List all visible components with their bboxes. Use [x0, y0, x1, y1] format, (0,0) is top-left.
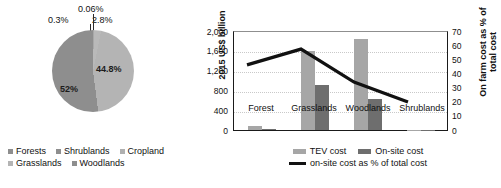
pie-legend-swatch-woodlands — [72, 161, 77, 166]
y-tick-right-40: 40 — [452, 69, 476, 79]
y-axis-right-title: On farm cost as % of total cost — [478, 4, 498, 100]
x-tick-forest: Forest — [235, 103, 287, 113]
pie-legend-label-woodlands: Woodlands — [80, 158, 125, 168]
bar-chart-panel: 2015 US$ billion On farm cost as % of to… — [190, 0, 501, 188]
x-tick-woodlands: Woodlands — [340, 103, 396, 113]
pie-legend-item-grasslands: Grasslands — [8, 158, 62, 168]
pie-legend-item-woodlands: Woodlands — [72, 158, 125, 168]
pie-slices — [52, 30, 134, 112]
plot-area — [233, 31, 448, 131]
pie-legend-item-shrublands: Shrublands — [56, 146, 110, 156]
y-tick-left-2000: 2,000 — [194, 27, 228, 37]
y-tick-right-60: 60 — [452, 41, 476, 51]
bar-legend-row-1: TEV cost On-site cost — [238, 146, 478, 156]
x-tick-shrublands: Shrublands — [394, 103, 450, 113]
y-tick-left-1200: 1,200 — [194, 66, 228, 76]
bar-legend-label-onsite: On-site cost — [375, 146, 423, 156]
y-tick-right-70: 70 — [452, 27, 476, 37]
bar-legend-swatch-tev — [293, 149, 306, 154]
pie-legend-label-cropland: Cropland — [128, 146, 165, 156]
y-tick-right-50: 50 — [452, 55, 476, 65]
pie-callout-labels: 0.06% 0.3% 2.8% — [0, 2, 190, 32]
bar-legend-item-tev: TEV cost — [293, 146, 347, 156]
pie-callout-woodlands: 2.8% — [92, 15, 113, 25]
x-tick-grasslands: Grasslands — [286, 103, 342, 113]
y-tick-right-30: 30 — [452, 83, 476, 93]
bar-legend-label-line: on-site cost as % of total cost — [310, 158, 427, 168]
bar-legend-swatch-onsite — [358, 149, 371, 154]
y-tick-right-20: 20 — [452, 97, 476, 107]
y-tick-left-400: 400 — [194, 106, 228, 116]
pie-legend-item-forests: Forests — [8, 146, 46, 156]
y-tick-right-0: 0 — [452, 126, 476, 136]
pie-legend-label-grasslands: Grasslands — [16, 158, 62, 168]
bar-legend-swatch-line — [289, 162, 306, 165]
pie-legend-row-1: Forests Shrublands Cropland — [8, 146, 190, 156]
pie-value-grasslands: 44.8% — [96, 64, 122, 74]
pie-legend: Forests Shrublands Cropland Grasslands — [8, 146, 190, 170]
pie-legend-swatch-shrublands — [56, 149, 61, 154]
y-tick-left-1600: 1,600 — [194, 46, 228, 56]
y-tick-left-800: 800 — [194, 86, 228, 96]
pie-chart-panel: 0.06% 0.3% 2.8% 44.8% 52% Forests Shrubl… — [0, 0, 190, 188]
pie-value-forests: 52% — [60, 84, 78, 94]
bar-legend-item-onsite: On-site cost — [358, 146, 423, 156]
pie-legend-swatch-cropland — [120, 149, 125, 154]
y-tick-right-10: 10 — [452, 111, 476, 121]
pie-legend-label-shrublands: Shrublands — [64, 146, 110, 156]
bar-legend-label-tev: TEV cost — [310, 146, 347, 156]
bar-legend-row-2: on-site cost as % of total cost — [238, 158, 478, 168]
bar-legend-item-line: on-site cost as % of total cost — [289, 158, 427, 168]
pie-legend-swatch-forests — [8, 149, 13, 154]
pie-callout-shrublands: 0.3% — [48, 15, 69, 25]
pie-legend-item-cropland: Cropland — [120, 146, 165, 156]
bar-legend: TEV cost On-site cost on-site cost as % … — [238, 146, 478, 170]
figure-root: 0.06% 0.3% 2.8% 44.8% 52% Forests Shrubl… — [0, 0, 501, 188]
pie-legend-label-forests: Forests — [16, 146, 46, 156]
onsite-percent-line — [234, 32, 449, 132]
pie-callout-cropland: 0.06% — [78, 4, 104, 14]
pie-legend-row-2: Grasslands Woodlands — [8, 158, 190, 168]
y-tick-left-0: 0 — [194, 126, 228, 136]
pie-legend-swatch-grasslands — [8, 161, 13, 166]
